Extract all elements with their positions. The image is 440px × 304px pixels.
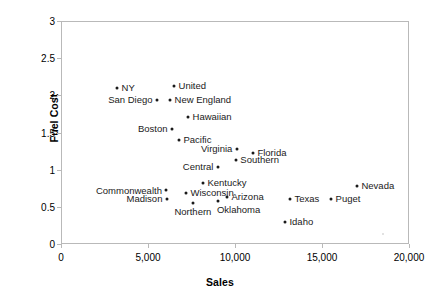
data-point <box>177 138 180 141</box>
y-axis-title: Fuel Cost <box>48 58 60 178</box>
data-point-label: Nevada <box>361 181 394 191</box>
y-tick-label: 2.5 <box>15 53 55 64</box>
x-tick-label: 0 <box>58 252 64 263</box>
data-point-label: New England <box>175 95 232 105</box>
y-tick-mark <box>57 21 61 22</box>
data-point-label: Arizona <box>231 192 263 202</box>
data-point-label: Texas <box>294 194 319 204</box>
x-tick-label: 20,000 <box>394 252 425 263</box>
data-point <box>235 147 238 150</box>
data-point <box>234 159 237 162</box>
data-point <box>191 202 194 205</box>
x-tick-label: 15,000 <box>307 252 338 263</box>
data-point-label: Puget <box>336 194 361 204</box>
data-point <box>216 199 219 202</box>
data-point-label: NY <box>122 83 135 93</box>
data-point-label: Northern <box>174 207 211 217</box>
x-axis-title: Sales <box>0 276 440 288</box>
y-tick-label: 0 <box>15 239 55 250</box>
x-tick-mark <box>322 244 323 248</box>
y-tick-label: 0.5 <box>15 201 55 212</box>
data-point <box>156 98 159 101</box>
data-point-label: Southern <box>240 155 279 165</box>
x-tick-mark <box>235 244 236 248</box>
artifact-speck <box>382 233 384 235</box>
data-point <box>187 115 190 118</box>
scatter-chart: Fuel Cost Sales 00.511.522.5305,00010,00… <box>0 0 440 304</box>
data-point <box>355 185 358 188</box>
data-point-label: Madison <box>127 194 163 204</box>
y-tick-label: 2 <box>15 90 55 101</box>
data-point-label: Boston <box>138 124 168 134</box>
data-point-label: San Diego <box>108 95 152 105</box>
data-point-label: Idaho <box>289 217 313 227</box>
x-tick-mark <box>148 244 149 248</box>
data-point <box>165 197 168 200</box>
x-tick-mark <box>61 244 62 248</box>
y-tick-mark <box>57 207 61 208</box>
y-tick-mark <box>57 95 61 96</box>
x-tick-label: 5,000 <box>135 252 160 263</box>
y-tick-mark <box>57 133 61 134</box>
data-point <box>116 86 119 89</box>
data-point <box>225 196 228 199</box>
data-point <box>201 182 204 185</box>
data-point <box>330 197 333 200</box>
data-point <box>164 188 167 191</box>
data-point-label: United <box>179 81 206 91</box>
data-point-label: Central <box>183 162 214 172</box>
data-point-label: Oklahoma <box>217 205 260 215</box>
data-point <box>171 127 174 130</box>
x-tick-mark <box>409 244 410 248</box>
data-point <box>288 197 291 200</box>
x-tick-label: 10,000 <box>220 252 251 263</box>
data-point-label: Hawaiian <box>193 112 232 122</box>
data-point <box>173 84 176 87</box>
y-tick-mark <box>57 58 61 59</box>
y-tick-mark <box>57 170 61 171</box>
y-tick-label: 1.5 <box>15 127 55 138</box>
data-point <box>169 98 172 101</box>
data-point <box>216 165 219 168</box>
data-point <box>283 220 286 223</box>
data-point-label: Virginia <box>201 144 233 154</box>
data-point <box>184 191 187 194</box>
y-tick-label: 3 <box>15 16 55 27</box>
y-tick-label: 1 <box>15 164 55 175</box>
